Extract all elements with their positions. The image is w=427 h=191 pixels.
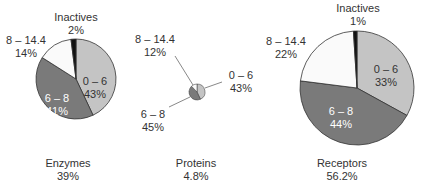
enzymes-share: 39% [57,170,79,182]
receptors-8-14-label: 8 – 14.4 [266,35,306,47]
receptors-6-8-label: 6 – 8 [329,105,353,117]
enzymes-8-14-pct: 14% [15,47,37,59]
receptors-0-6-pct: 33% [375,76,397,88]
proteins-share: 4.8% [183,170,208,182]
enzymes-inactives-pct: 2% [68,24,84,36]
receptors-share: 56.2% [326,170,357,182]
pie-charts-figure: Inactives 2% 8 – 14.4 14% 0 – 6 43% 6 – … [0,0,427,191]
enzymes-6-8-label: 6 – 8 [45,92,69,104]
enzymes-labels: Inactives 2% 8 – 14.4 14% 0 – 6 43% 6 – … [6,11,107,182]
proteins-6-8-pct: 45% [142,121,164,133]
enzymes-6-8-pct: 41% [46,105,68,117]
enzymes-inactives-label: Inactives [54,11,98,23]
receptors-0-6-label: 0 – 6 [374,63,398,75]
proteins-8-14-pct: 12% [144,46,166,58]
proteins-0-6-label: 0 – 6 [229,69,253,81]
proteins-0-6-pct: 43% [230,82,252,94]
receptors-inactives-label: Inactives [336,2,380,14]
enzymes-0-6-pct: 43% [84,88,106,100]
proteins-8-14-label: 8 – 14.4 [135,33,175,45]
pie-slice [300,31,357,88]
receptors-inactives-pct: 1% [350,15,366,27]
proteins-6-8-label: 6 – 8 [141,108,165,120]
receptors-6-8-pct: 44% [330,118,352,130]
receptors-8-14-pct: 22% [275,48,297,60]
proteins-pie [189,84,205,100]
enzymes-8-14-label: 8 – 14.4 [6,34,46,46]
enzymes-0-6-label: 0 – 6 [83,75,107,87]
proteins-labels: 8 – 14.4 12% 0 – 6 43% 6 – 8 45% Protein… [135,33,253,182]
proteins-title: Proteins [176,157,217,169]
receptors-title: Receptors [317,157,368,169]
enzymes-title: Enzymes [45,157,91,169]
